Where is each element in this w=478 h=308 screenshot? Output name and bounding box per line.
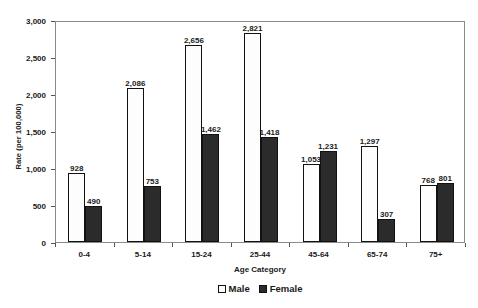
x-category-label-45-64: 45-64 — [308, 250, 328, 259]
y-tick-label: 500 — [33, 202, 46, 211]
bar-male-25-44[interactable]: 2,821 — [244, 33, 261, 242]
bar-value-label: 307 — [380, 210, 393, 219]
plot-area: 9284902,0867532,6561,4622,8211,4181,0531… — [55, 21, 465, 243]
bar-female-45-64[interactable]: 1,231 — [320, 151, 337, 242]
bar-male-75+[interactable]: 768 — [420, 185, 437, 242]
bar-group: 768801 — [420, 22, 454, 242]
bar-female-0-4[interactable]: 490 — [85, 206, 102, 242]
x-tick-mark — [406, 243, 407, 247]
legend-swatch-icon — [259, 285, 267, 293]
y-tick-label: 1,000 — [26, 165, 46, 174]
x-tick-mark — [114, 243, 115, 247]
y-tick-label: 2,000 — [26, 91, 46, 100]
y-tick-label: 0 — [42, 239, 46, 248]
bar-value-label: 2,656 — [184, 36, 204, 45]
bar-group: 928490 — [68, 22, 102, 242]
legend-swatch-icon — [218, 285, 226, 293]
bar-female-65-74[interactable]: 307 — [378, 219, 395, 242]
x-tick-mark — [55, 243, 56, 247]
bar-value-label: 753 — [146, 177, 159, 186]
bar-value-label: 1,297 — [360, 137, 380, 146]
bar-group: 1,0531,231 — [303, 22, 337, 242]
bar-male-15-24[interactable]: 2,656 — [185, 45, 202, 242]
y-tick-label: 1,500 — [26, 128, 46, 137]
legend-item-female[interactable]: Female — [259, 283, 303, 294]
bar-male-65-74[interactable]: 1,297 — [361, 146, 378, 242]
y-tick-label: 3,000 — [26, 17, 46, 26]
bar-male-45-64[interactable]: 1,053 — [303, 164, 320, 242]
x-tick-mark — [465, 243, 466, 247]
x-tick-mark — [172, 243, 173, 247]
x-category-label-25-44: 25-44 — [250, 250, 270, 259]
bar-chart: Rate (per 100,000) 3,0002,5002,0001,5001… — [0, 0, 478, 308]
bar-female-25-44[interactable]: 1,418 — [261, 137, 278, 242]
chart-legend: MaleFemale — [55, 283, 465, 294]
x-category-label-65-74: 65-74 — [367, 250, 387, 259]
x-category-label-0-4: 0-4 — [79, 250, 91, 259]
bar-value-label: 2,821 — [242, 24, 262, 33]
y-axis-ticks: 3,0002,5002,0001,5001,0005000 — [0, 0, 52, 308]
legend-label: Male — [229, 283, 250, 294]
x-tick-mark — [348, 243, 349, 247]
bar-value-label: 801 — [439, 174, 452, 183]
x-category-label-75+: 75+ — [429, 250, 443, 259]
bar-value-label: 1,418 — [259, 128, 279, 137]
bar-value-label: 1,053 — [301, 155, 321, 164]
x-tick-mark — [289, 243, 290, 247]
bar-value-label: 1,462 — [201, 125, 221, 134]
bar-group: 2,6561,462 — [185, 22, 219, 242]
bar-male-0-4[interactable]: 928 — [68, 173, 85, 242]
x-category-label-5-14: 5-14 — [135, 250, 151, 259]
x-tick-mark — [231, 243, 232, 247]
x-category-label-15-24: 15-24 — [191, 250, 211, 259]
legend-item-male[interactable]: Male — [218, 283, 250, 294]
bar-group: 2,086753 — [127, 22, 161, 242]
bar-value-label: 2,086 — [125, 79, 145, 88]
bar-value-label: 928 — [70, 164, 83, 173]
bar-female-15-24[interactable]: 1,462 — [202, 134, 219, 242]
y-tick-label: 2,500 — [26, 54, 46, 63]
x-axis-title: Age Category — [55, 265, 465, 274]
bar-female-75+[interactable]: 801 — [437, 183, 454, 242]
bar-group: 1,297307 — [361, 22, 395, 242]
legend-label: Female — [270, 283, 303, 294]
bar-female-5-14[interactable]: 753 — [144, 186, 161, 242]
bar-value-label: 490 — [87, 197, 100, 206]
bars-layer: 9284902,0867532,6561,4622,8211,4181,0531… — [56, 22, 464, 242]
bar-value-label: 1,231 — [318, 142, 338, 151]
bar-value-label: 768 — [422, 176, 435, 185]
bar-male-5-14[interactable]: 2,086 — [127, 88, 144, 242]
bar-group: 2,8211,418 — [244, 22, 278, 242]
